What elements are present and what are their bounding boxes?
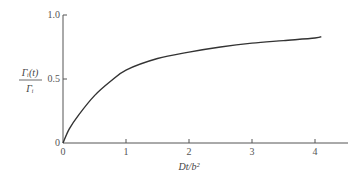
x-tick-label: 0 xyxy=(61,146,66,157)
y-axis xyxy=(63,15,67,143)
y-tick-label: 0 xyxy=(55,137,60,148)
data-line xyxy=(63,37,321,143)
x-axis-label: Dt/b² xyxy=(178,161,201,172)
y-label-numerator: Γᵢ(t) xyxy=(21,67,39,79)
x-tick-label: 1 xyxy=(124,146,129,157)
y-label-denominator: Γᵢ xyxy=(25,83,34,94)
y-tick-label: 1.0 xyxy=(48,9,61,20)
x-tick-label: 2 xyxy=(187,146,192,157)
y-tick-label: 0.5 xyxy=(48,73,61,84)
y-axis-label: Γᵢ(t) Γᵢ xyxy=(19,67,42,94)
x-axis xyxy=(63,139,348,143)
x-tick-label: 4 xyxy=(313,146,318,157)
x-tick-label: 3 xyxy=(250,146,255,157)
x-tick-labels: 01234 xyxy=(61,146,318,157)
y-tick-labels: 00.51.0 xyxy=(48,9,61,148)
chart: 00.51.0 01234 Γᵢ(t) Γᵢ Dt/b² xyxy=(0,0,364,183)
